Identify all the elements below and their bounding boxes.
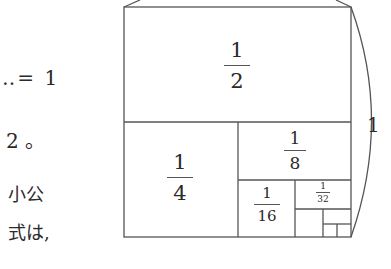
fraction-half: 1 2 (222, 38, 252, 93)
fraction-bar (254, 204, 280, 205)
fraction-thirty-second: 1 32 (313, 181, 333, 204)
numerator: 1 (262, 184, 272, 202)
fraction-quarter: 1 4 (165, 150, 195, 205)
numerator: 1 (230, 38, 243, 62)
fraction-bar (316, 192, 330, 193)
numerator: 1 (173, 150, 186, 174)
numerator: 1 (320, 181, 326, 191)
fraction-bar (224, 65, 250, 66)
denominator: 8 (290, 153, 301, 173)
fraction-eighth: 1 8 (282, 128, 308, 173)
numerator: 1 (290, 128, 301, 148)
fraction-bar (284, 150, 306, 151)
fraction-bar (167, 177, 193, 178)
fraction-sixteenth: 1 16 (252, 184, 282, 225)
side-length-label: 1 (367, 115, 380, 135)
square-partition-diagram (0, 0, 391, 269)
denominator: 4 (173, 181, 186, 205)
denominator: 2 (230, 69, 243, 93)
denominator: 16 (257, 207, 276, 225)
denominator: 32 (317, 194, 328, 204)
